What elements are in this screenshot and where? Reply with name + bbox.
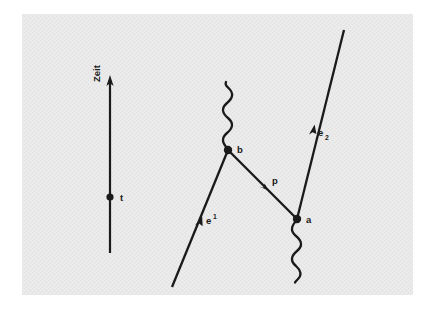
electron-in-superscript: 1 xyxy=(213,213,217,220)
feynman-diagram-canvas: Zeit t e 1 p e 2 xyxy=(0,0,431,309)
vertex-a-dot xyxy=(293,215,301,223)
electron-out-subscript: 2 xyxy=(325,134,329,141)
electron-in-label: e xyxy=(206,215,211,226)
vertex-b-dot xyxy=(224,146,232,154)
propagator-label: p xyxy=(272,175,278,186)
time-point-dot xyxy=(106,193,113,200)
vertex-a-label: a xyxy=(306,214,312,225)
diagram-panel xyxy=(22,14,413,295)
vertex-b-label: b xyxy=(237,144,243,155)
time-axis-label: Zeit xyxy=(91,64,102,82)
electron-out-label: e xyxy=(318,127,323,138)
figure-root: Zeit t e 1 p e 2 xyxy=(0,0,431,309)
